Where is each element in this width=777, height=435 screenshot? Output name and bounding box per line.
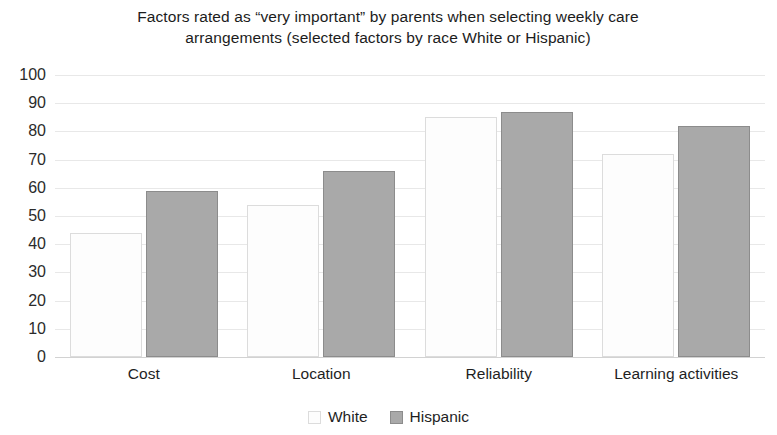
x-axis: CostLocationReliabilityLearning activiti… [55,363,765,389]
y-axis-tick-label: 20 [0,293,46,309]
bars-layer [55,75,765,357]
chart-title-line-2: arrangements (selected factors by race W… [185,29,590,46]
x-axis-tick-label: Cost [128,363,160,385]
y-axis-tick-label: 90 [0,95,46,111]
bar-hispanic-reliability [501,112,573,357]
chart-legend: WhiteHispanic [0,408,777,426]
y-axis-tick-label: 40 [0,236,46,252]
y-axis-tick-label: 30 [0,264,46,280]
legend-swatch-icon [308,411,321,424]
bar-hispanic-location [323,171,395,357]
bar-white-learning-activities [602,154,674,357]
y-axis: 1009080706050403020100 [0,75,46,357]
bar-white-reliability [425,117,497,357]
bar-white-location [247,205,319,357]
x-axis-tick-label: Learning activities [614,363,738,385]
chart-title: Factors rated as “very important” by par… [38,6,738,48]
legend-swatch-icon [390,411,403,424]
bar-chart: Factors rated as “very important” by par… [0,0,777,435]
x-axis-tick-label: Reliability [466,363,532,385]
legend-item-hispanic[interactable]: Hispanic [390,408,469,426]
bar-hispanic-cost [146,191,218,357]
x-axis-baseline [55,357,765,358]
y-axis-tick-label: 50 [0,208,46,224]
legend-item-white[interactable]: White [308,408,368,426]
bar-hispanic-learning-activities [678,126,750,357]
y-axis-tick-label: 0 [0,349,46,365]
plot-area [55,75,765,357]
bar-white-cost [70,233,142,357]
y-axis-tick-label: 60 [0,180,46,196]
legend-label: Hispanic [410,408,469,426]
x-axis-tick-label: Location [292,363,351,385]
y-axis-tick-label: 80 [0,123,46,139]
y-axis-tick-label: 100 [0,67,46,83]
chart-title-line-1: Factors rated as “very important” by par… [137,8,639,25]
y-axis-tick-label: 70 [0,152,46,168]
legend-label: White [328,408,368,426]
y-axis-tick-label: 10 [0,321,46,337]
